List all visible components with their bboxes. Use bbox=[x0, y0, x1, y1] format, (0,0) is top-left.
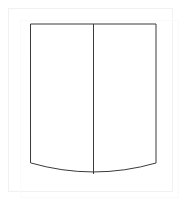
drawing-canvas bbox=[0, 0, 180, 201]
figure-two-panel-shield bbox=[0, 0, 180, 201]
